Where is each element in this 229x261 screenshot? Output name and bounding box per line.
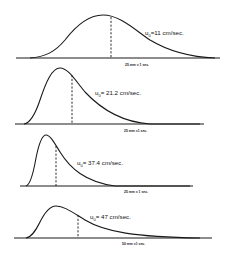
velocity-label-4: u0= 47 cm/sec. — [90, 213, 131, 222]
scale-label-1: 25 mm = 1 sec. — [125, 63, 149, 67]
velocity-label-2: u0= 21.2 cm/sec. — [95, 89, 141, 98]
dispersion-curves-figure: u0=11 cm/sec. 25 mm = 1 sec. u0= 21.2 cm… — [0, 0, 229, 261]
panel-3: u0= 37.4 cm/sec. 25 mm = 1 sec. — [20, 135, 193, 194]
scale-label-3: 25 mm = 1 sec. — [124, 190, 148, 194]
velocity-label-3: u0= 37.4 cm/sec. — [77, 159, 123, 168]
panel-2: u0= 21.2 cm/sec. 25 mm =1 sec. — [15, 68, 204, 133]
scale-label-4: 50 mm =1 sec. — [122, 242, 145, 246]
curve-2 — [24, 68, 200, 124]
curve-4 — [26, 206, 200, 238]
scale-label-2: 25 mm =1 sec. — [124, 129, 147, 133]
panel-4: u0= 47 cm/sec. 50 mm =1 sec. — [14, 206, 212, 246]
panel-1: u0=11 cm/sec. 25 mm = 1 sec. — [16, 15, 220, 67]
velocity-label-1: u0=11 cm/sec. — [145, 29, 184, 38]
curve-1 — [30, 15, 215, 58]
